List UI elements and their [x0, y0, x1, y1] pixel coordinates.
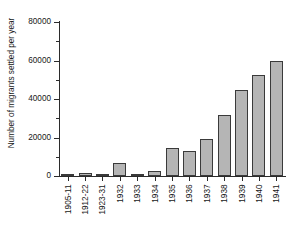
x-axis-tick — [68, 177, 69, 181]
y-axis-tick-label-container: 80000 — [5, 18, 51, 26]
y-axis-tick-label: 0 — [5, 172, 51, 180]
x-axis-tick-label-container: 1935 — [166, 183, 178, 227]
x-axis-tick — [242, 177, 243, 181]
x-axis-tick-label: 1938 — [220, 185, 229, 225]
x-axis-tick-label-container: 1923-31 — [96, 183, 108, 227]
x-axis-tick-label-container: 1941 — [270, 183, 282, 227]
x-axis-tick — [276, 177, 277, 181]
plot-area — [59, 22, 285, 176]
y-axis-tick-label: 80000 — [5, 18, 51, 26]
x-axis-tick-label-container: 1912-22 — [79, 183, 91, 227]
y-axis-tick-label: 20000 — [5, 134, 51, 142]
x-axis-tick — [224, 177, 225, 181]
x-axis-tick — [207, 177, 208, 181]
bar-1939 — [235, 90, 248, 176]
x-axis-tick-label: 1940 — [254, 185, 263, 225]
x-axis-tick — [172, 177, 173, 181]
x-axis-tick-label: 1936 — [185, 185, 194, 225]
x-axis-tick — [137, 177, 138, 181]
x-axis-tick-label-container: 1937 — [201, 183, 213, 227]
x-axis-tick — [85, 177, 86, 181]
y-axis-tick-label-container: 40000 — [5, 95, 51, 103]
y-axis-tick-label-container: 0 — [5, 172, 51, 180]
x-axis-tick-label: 1934 — [150, 185, 159, 225]
x-axis-tick-label: 1905-11 — [63, 185, 72, 225]
x-axis-tick-label: 1941 — [272, 185, 281, 225]
bar-1934 — [148, 171, 161, 176]
bar-1933 — [131, 174, 144, 176]
x-axis-tick-label: 1932 — [115, 185, 124, 225]
x-axis-tick-label-container: 1934 — [149, 183, 161, 227]
x-axis-tick-label: 1939 — [237, 185, 246, 225]
bar-1905-11 — [61, 174, 74, 176]
x-axis-tick-label-container: 1938 — [218, 183, 230, 227]
x-axis-tick-label: 1923-31 — [98, 185, 107, 225]
y-axis-tick-label-container: 20000 — [5, 134, 51, 142]
y-axis-major-tick — [54, 176, 60, 177]
x-axis-tick-label: 1935 — [168, 185, 177, 225]
x-axis-tick-label-container: 1933 — [131, 183, 143, 227]
bar-chart-figure: Number of migrants settled per year 0200… — [0, 0, 293, 228]
y-axis-tick-label-container: 60000 — [5, 57, 51, 65]
x-axis-tick-label: 1937 — [202, 185, 211, 225]
bar-1923-31 — [96, 174, 109, 176]
x-axis-tick — [120, 177, 121, 181]
bar-1912-22 — [79, 173, 92, 176]
x-axis-tick — [155, 177, 156, 181]
bar-1940 — [252, 75, 265, 176]
x-axis-tick-label-container: 1939 — [236, 183, 248, 227]
x-axis-tick-label: 1912-22 — [81, 185, 90, 225]
bar-1932 — [113, 163, 126, 176]
y-axis-title-container: Number of migrants settled per year — [0, 0, 16, 180]
bar-1941 — [270, 61, 283, 176]
x-axis-tick — [102, 177, 103, 181]
y-axis-tick-label: 60000 — [5, 57, 51, 65]
x-axis-tick-label-container: 1936 — [183, 183, 195, 227]
bar-1935 — [166, 148, 179, 176]
y-axis-tick-label: 40000 — [5, 95, 51, 103]
x-axis-tick-label-container: 1940 — [253, 183, 265, 227]
x-axis-tick-label-container: 1905-11 — [62, 183, 74, 227]
x-axis-tick-label-container: 1932 — [114, 183, 126, 227]
bar-1938 — [218, 115, 231, 176]
bar-1936 — [183, 151, 196, 176]
x-axis-tick — [189, 177, 190, 181]
x-axis-tick — [259, 177, 260, 181]
bar-1937 — [200, 139, 213, 176]
x-axis-tick-label: 1933 — [133, 185, 142, 225]
